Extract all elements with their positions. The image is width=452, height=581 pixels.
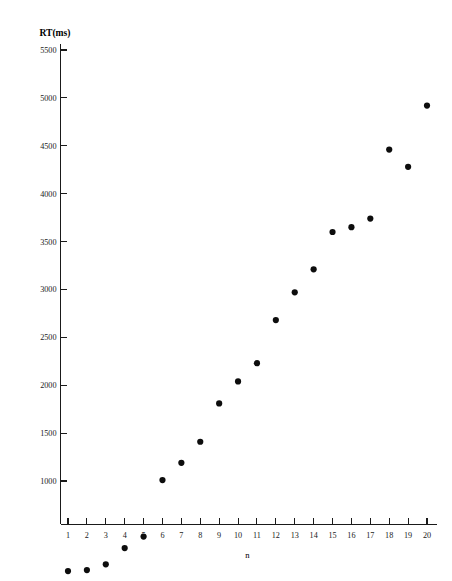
y-tick-label: 1500: [40, 429, 56, 438]
data-point: n=7, RT=1190 ms: [178, 460, 184, 466]
data-point: n=13, RT=2970 ms: [292, 289, 298, 295]
x-axis-title-group: n: [245, 550, 250, 560]
data-point: n=6, RT=1010 ms: [159, 477, 165, 483]
y-axis-title: RT(ms): [39, 27, 70, 39]
data-point: n=2, RT=70 ms: [84, 567, 90, 573]
x-axis-ticks: 1234567891011121314151617181920: [66, 518, 431, 540]
x-tick-label: 1: [66, 531, 70, 540]
data-point: n=17, RT=3740 ms: [367, 215, 373, 221]
y-tick-label: 1000: [40, 477, 56, 486]
data-point-series: n=1, RT=60 msn=2, RT=70 msn=3, RT=130 ms…: [65, 102, 430, 574]
x-tick-label: 19: [404, 531, 412, 540]
x-tick-label: 16: [347, 531, 355, 540]
y-tick-label: 3500: [40, 238, 56, 247]
x-tick-label: 10: [234, 531, 242, 540]
y-tick-label: 4000: [40, 190, 56, 199]
x-tick-label: 18: [385, 531, 393, 540]
data-point: n=12, RT=2680 ms: [273, 317, 279, 323]
y-tick-label: 3000: [40, 285, 56, 294]
x-tick-label: 4: [123, 531, 127, 540]
axis-lines: [61, 44, 438, 525]
x-tick-label: 14: [310, 531, 318, 540]
x-tick-label: 9: [217, 531, 221, 540]
data-point: n=14, RT=3210 ms: [311, 266, 317, 272]
data-point: n=19, RT=4280 ms: [405, 164, 411, 170]
y-axis-ticks: 1000150020002500300035004000450050005500: [40, 46, 66, 486]
y-tick-label: 4500: [40, 142, 56, 151]
x-tick-label: 12: [272, 531, 280, 540]
y-axis-title-group: RT(ms): [39, 27, 70, 39]
plot-canvas: RT(ms) 100015002000250030003500400045005…: [0, 0, 452, 581]
data-point: n=1, RT=60 ms: [65, 568, 71, 574]
x-tick-label: 2: [85, 531, 89, 540]
data-point: n=8, RT=1410 ms: [197, 439, 203, 445]
x-axis-title: n: [245, 550, 250, 560]
y-tick-label: 2500: [40, 333, 56, 342]
data-point: n=16, RT=3650 ms: [348, 224, 354, 230]
x-tick-label: 7: [179, 531, 183, 540]
x-tick-label: 13: [291, 531, 299, 540]
data-point: n=10, RT=2040 ms: [235, 378, 241, 384]
y-tick-label: 2000: [40, 381, 56, 390]
x-tick-label: 15: [328, 531, 336, 540]
x-tick-label: 8: [198, 531, 202, 540]
data-point: n=5, RT=420 ms: [140, 533, 146, 539]
x-tick-label: 17: [366, 531, 374, 540]
data-point: n=15, RT=3600 ms: [329, 229, 335, 235]
x-tick-label: 6: [160, 531, 164, 540]
data-point: n=4, RT=300 ms: [122, 545, 128, 551]
data-point: n=9, RT=1810 ms: [216, 400, 222, 406]
y-tick-label: 5000: [40, 94, 56, 103]
x-tick-label: 20: [423, 531, 431, 540]
data-point: n=20, RT=4920 ms: [424, 102, 430, 108]
y-tick-label: 5500: [40, 46, 56, 55]
data-point: n=18, RT=4460 ms: [386, 147, 392, 153]
x-tick-label: 3: [104, 531, 108, 540]
scatter-plot-figure: RT(ms) 100015002000250030003500400045005…: [0, 0, 452, 581]
data-point: n=11, RT=2230 ms: [254, 360, 260, 366]
x-tick-label: 11: [253, 531, 261, 540]
data-point: n=3, RT=130 ms: [103, 561, 109, 567]
